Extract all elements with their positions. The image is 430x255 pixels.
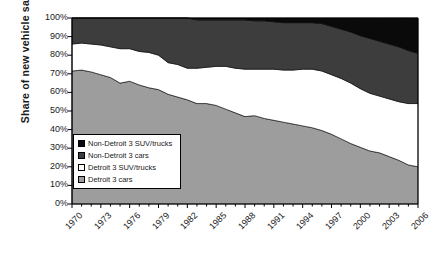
- legend-item-label: Detroit 3 SUV/trucks: [88, 164, 156, 172]
- legend-item-label: Detroit 3 cars: [88, 176, 133, 184]
- chart-legend: Non-Detroit 3 SUV/trucksNon-Detroit 3 ca…: [73, 134, 181, 189]
- y-tick-label: 70%: [50, 69, 68, 78]
- y-tick-label: 100%: [45, 13, 68, 22]
- legend-item: Non-Detroit 3 SUV/trucks: [78, 138, 177, 149]
- y-tick-label: 10%: [50, 180, 68, 189]
- legend-item-label: Non-Detroit 3 cars: [88, 152, 149, 160]
- legend-swatch-icon: [78, 140, 85, 147]
- y-tick-label: 80%: [50, 50, 68, 59]
- y-axis-tick-labels: 0%10%20%30%40%50%60%70%80%90%100%: [26, 0, 68, 255]
- legend-item: Detroit 3 cars: [78, 174, 177, 185]
- legend-item: Non-Detroit 3 cars: [78, 150, 177, 161]
- legend-swatch-icon: [78, 152, 85, 159]
- y-tick-label: 30%: [50, 143, 68, 152]
- legend-swatch-icon: [78, 164, 85, 171]
- y-tick-label: 20%: [50, 162, 68, 171]
- y-tick-label: 60%: [50, 87, 68, 96]
- y-tick-label: 50%: [50, 106, 68, 115]
- y-tick-label: 0%: [55, 199, 68, 208]
- legend-item-label: Non-Detroit 3 SUV/trucks: [88, 140, 172, 148]
- legend-item: Detroit 3 SUV/trucks: [78, 162, 177, 173]
- legend-swatch-icon: [78, 176, 85, 183]
- y-tick-label: 90%: [50, 32, 68, 41]
- y-tick-label: 40%: [50, 125, 68, 134]
